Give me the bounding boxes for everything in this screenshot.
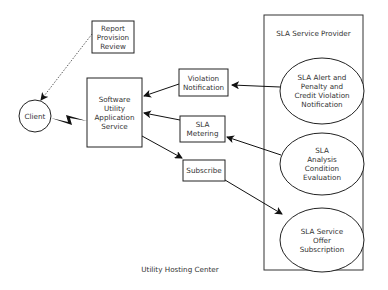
subscribe-label: Subscribe bbox=[183, 160, 225, 181]
client-label: Client bbox=[19, 100, 51, 132]
edge-metering-software bbox=[144, 113, 180, 120]
diagram-canvas: SLA Service Provider Report Provision Re… bbox=[0, 0, 388, 290]
alert-label: SLA Alert and Penalty and Credit Violati… bbox=[280, 58, 364, 124]
offer-label: SLA Service Offer Subscription bbox=[280, 208, 364, 272]
edge-software-subscribe bbox=[142, 136, 182, 158]
edge-violation-software bbox=[144, 84, 179, 96]
software-label: Software Utility Application Service bbox=[87, 78, 142, 147]
edge-subscribe-offer bbox=[225, 180, 282, 214]
violation-label: Violation Notification bbox=[179, 69, 228, 96]
report-label: Report Provision Review bbox=[92, 21, 134, 53]
edge-analysis-metering bbox=[227, 137, 281, 155]
edge-alert-violation bbox=[232, 85, 280, 87]
analysis-label: SLA Analysis Condition Evaluation bbox=[280, 133, 364, 195]
footer-label: Utility Hosting Center bbox=[130, 262, 230, 276]
lightning-bolt bbox=[51, 115, 87, 125]
metering-label: SLA Metering bbox=[180, 116, 225, 142]
provider-title: SLA Service Provider bbox=[264, 22, 363, 44]
edge-report-client bbox=[41, 34, 92, 100]
